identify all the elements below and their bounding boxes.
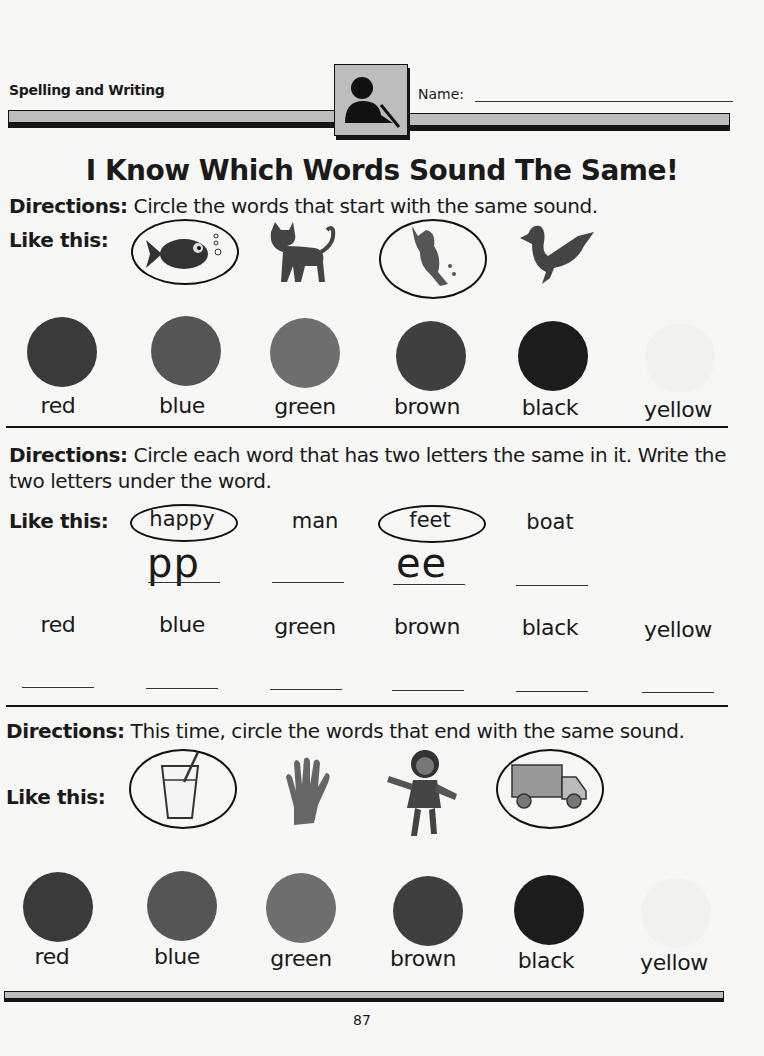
answer-blank[interactable] (516, 691, 588, 692)
color-word[interactable]: green (246, 946, 356, 971)
directions-1: Directions: Circle the words that start … (9, 193, 598, 219)
answer-blank (272, 582, 344, 583)
word[interactable]: blue (127, 612, 237, 637)
color-dot-blue (147, 871, 217, 941)
answer-blank (393, 584, 465, 585)
page-title: I Know Which Words Sound The Same! (0, 154, 764, 187)
word[interactable]: brown (372, 614, 482, 639)
like-this-label-2: Like this: (9, 509, 108, 533)
truck-icon (508, 763, 590, 813)
directions-text: This time, circle the words that end wit… (131, 719, 685, 743)
directions-3: Directions: This time, circle the words … (6, 718, 736, 744)
color-word[interactable]: green (250, 394, 360, 419)
directions-text: Circle the words that start with the sam… (134, 194, 598, 218)
answer-blank (148, 582, 220, 583)
color-dot-yellow (645, 323, 715, 393)
section-label: Spelling and Writing (9, 82, 165, 98)
color-word[interactable]: red (0, 944, 107, 969)
color-word[interactable]: brown (372, 394, 482, 419)
example-word: feet (378, 508, 482, 532)
color-dot-red (27, 317, 97, 387)
color-dot-green (266, 873, 336, 943)
color-dot-black (514, 875, 584, 945)
color-dot-brown (393, 876, 463, 946)
like-this-label-1: Like this: (9, 228, 108, 252)
color-dot-black (518, 321, 588, 391)
answer-blank[interactable] (270, 689, 342, 690)
color-dot-brown (396, 321, 466, 391)
section-divider (6, 426, 728, 428)
cat-icon (265, 222, 340, 288)
answer-blank[interactable] (392, 690, 464, 691)
directions-label: Directions: (9, 443, 128, 467)
doll-icon (385, 748, 463, 844)
example-word: man (275, 509, 355, 533)
answer-blank[interactable] (642, 692, 714, 693)
student-writing-icon (334, 64, 408, 136)
answer-blank[interactable] (146, 688, 218, 689)
word[interactable]: yellow (623, 617, 733, 642)
example-answer: ee (396, 540, 447, 586)
color-dot-blue (151, 316, 221, 386)
directions-2: Directions: Circle each word that has tw… (9, 442, 739, 494)
color-word[interactable]: yellow (619, 950, 729, 975)
color-word[interactable]: red (3, 393, 113, 418)
bird-icon (518, 222, 598, 294)
directions-label: Directions: (6, 719, 125, 743)
answer-blank[interactable] (22, 687, 94, 688)
color-dot-yellow (641, 878, 711, 948)
color-word[interactable]: brown (368, 946, 478, 971)
word[interactable]: green (250, 614, 360, 639)
header-bar-left (8, 110, 336, 123)
fish-icon (142, 226, 232, 280)
frog-icon (398, 222, 468, 296)
glove-icon (280, 755, 336, 831)
color-word[interactable]: black (491, 948, 601, 973)
color-word[interactable]: blue (122, 944, 232, 969)
section-divider (6, 705, 728, 707)
example-word: happy (130, 507, 234, 531)
name-label: Name: (418, 86, 464, 102)
word[interactable]: black (495, 615, 605, 640)
color-word[interactable]: yellow (623, 397, 733, 422)
directions-label: Directions: (9, 194, 128, 218)
footer-bar (4, 991, 724, 999)
word[interactable]: red (3, 612, 113, 637)
color-word[interactable]: black (495, 395, 605, 420)
color-dot-green (270, 318, 340, 388)
example-answer: pp (147, 540, 200, 586)
like-this-label-3: Like this: (6, 785, 105, 809)
example-word: boat (510, 510, 590, 534)
answer-blank (516, 585, 588, 586)
page-number: 87 (0, 1012, 724, 1028)
header-bar-right (406, 113, 730, 126)
color-dot-red (23, 872, 93, 942)
glass-of-milk-icon (158, 752, 204, 826)
color-word[interactable]: blue (127, 393, 237, 418)
name-field[interactable] (475, 101, 733, 102)
